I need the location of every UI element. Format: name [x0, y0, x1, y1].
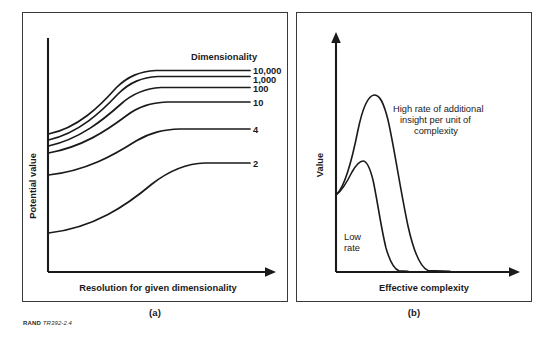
source-brand: RAND [23, 320, 41, 326]
panel-a-caption: (a) [22, 307, 288, 318]
panel-b-y-axis-arrowhead [331, 32, 341, 43]
panel-b-x-axis-label: Effective complexity [379, 283, 470, 293]
panel-b-y-axis-label: Value [315, 153, 325, 177]
panel-b-x-axis-arrowhead [509, 267, 520, 277]
annotation-low-rate-line1: Low [344, 232, 361, 242]
source-id: TR392-2.4 [43, 320, 72, 326]
figure-container: Resolution for given dimensionality Pote… [0, 0, 554, 340]
curve-low-rate [337, 161, 408, 271]
source-note: RAND TR392-2.4 [23, 320, 72, 326]
annotation-high-rate-line3: complexity [414, 126, 458, 136]
panel-b-caption: (b) [296, 307, 532, 318]
annotation-low-rate-line2: rate [344, 243, 360, 253]
annotation-high-rate-line1: High rate of additional [393, 104, 483, 114]
annotation-high-rate-line2: insight per unit of [400, 115, 471, 125]
annotation-low-rate: Low rate [344, 232, 361, 253]
panel-b-chart: Effective complexity Value High rate of … [0, 0, 554, 340]
annotation-high-rate: High rate of additional insight per unit… [393, 104, 483, 136]
